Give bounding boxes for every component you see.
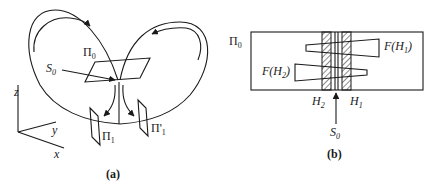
s0-arrow bbox=[62, 70, 115, 80]
right-lobe-arrow bbox=[152, 28, 201, 60]
label-axis-x: x bbox=[53, 147, 60, 161]
caption-b: (b) bbox=[327, 147, 342, 161]
h1-strip bbox=[342, 32, 351, 90]
label-pi1: Π1 bbox=[102, 129, 115, 145]
label-pi0-a: Π0 bbox=[83, 45, 96, 61]
label-h1: H1 bbox=[349, 94, 363, 110]
label-s0-a: S0 bbox=[46, 61, 56, 77]
pi1-plane bbox=[90, 108, 100, 145]
left-lobe-arrow bbox=[34, 18, 90, 52]
label-h2: H2 bbox=[311, 94, 325, 110]
split-arrow-left bbox=[104, 85, 115, 116]
label-axis-z: z bbox=[13, 85, 19, 99]
axis-y bbox=[18, 122, 56, 132]
panel-b: Π0 F(H1) F(H2) H2 H1 S0 (b) bbox=[229, 32, 423, 161]
label-f-h2: F(H2) bbox=[261, 64, 290, 80]
caption-a: (a) bbox=[106, 167, 120, 181]
label-axis-y: y bbox=[51, 123, 58, 137]
label-f-h1: F(H1) bbox=[383, 39, 412, 55]
label-pi0-b: Π0 bbox=[229, 34, 242, 50]
right-lobe-orbit bbox=[120, 22, 208, 124]
diagram-canvas: Π0 S0 Π1 Π'1 z y x (a) Π0 F(H1) F(H2) H2… bbox=[0, 0, 437, 188]
label-s0-b: S0 bbox=[330, 125, 340, 141]
label-pi1-prime: Π'1 bbox=[151, 121, 166, 137]
pi1-prime-plane bbox=[138, 100, 148, 136]
split-arrow-right bbox=[123, 85, 134, 116]
panel-a: Π0 S0 Π1 Π'1 z y x (a) bbox=[13, 10, 208, 181]
h2-strip bbox=[322, 32, 331, 90]
